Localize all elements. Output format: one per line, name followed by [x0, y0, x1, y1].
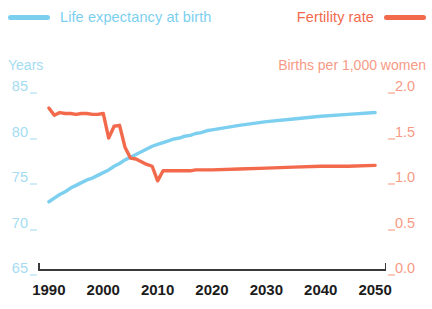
legend-item-life-expectancy: Life expectancy at birth [8, 9, 212, 25]
legend-swatch-life-expectancy [8, 15, 50, 20]
right-axis-tick-label: 1.5 [395, 124, 415, 140]
right-axis-tick-label: 0.0 [395, 260, 415, 276]
left-axis-tick-mark [30, 229, 37, 231]
left-axis-tick-label: 75 [12, 169, 28, 185]
left-axis-tick-label: 85 [12, 78, 28, 94]
legend-label-fertility-rate: Fertility rate [297, 9, 374, 25]
x-axis-cap-left [38, 263, 40, 270]
left-axis-tick-mark [30, 274, 37, 276]
plot-area [38, 88, 386, 270]
left-axis-caption: Years [8, 57, 43, 73]
left-axis-tick-label: 80 [12, 124, 28, 140]
x-axis-tick-label: 2040 [304, 281, 337, 298]
right-axis-tick-mark [388, 274, 395, 276]
right-axis-caption: Births per 1,000 women [278, 57, 426, 73]
right-axis-tick-label: 0.5 [395, 215, 415, 231]
right-axis-tick-mark [388, 138, 395, 140]
x-axis-tick-label: 1990 [32, 281, 65, 298]
left-axis-tick-label: 65 [12, 260, 28, 276]
x-axis-cap-right [385, 263, 387, 270]
x-axis-tick-label: 2050 [358, 281, 391, 298]
right-axis-tick-mark [388, 183, 395, 185]
left-axis-tick-mark [30, 138, 37, 140]
right-axis-tick-label: 1.0 [395, 169, 415, 185]
series-line-fertility-rate [49, 108, 375, 181]
left-axis-tick-mark [30, 183, 37, 185]
right-axis-tick-mark [388, 229, 395, 231]
x-axis-tick-label: 2030 [250, 281, 283, 298]
x-axis-tick-label: 2010 [141, 281, 174, 298]
left-axis-tick-label: 70 [12, 215, 28, 231]
right-axis-tick-mark [388, 92, 395, 94]
x-axis-tick-label: 2000 [87, 281, 120, 298]
legend-label-life-expectancy: Life expectancy at birth [60, 9, 212, 25]
x-axis-tick-label: 2020 [195, 281, 228, 298]
chart-container: Life expectancy at birth Fertility rate … [0, 0, 432, 309]
x-axis-line [38, 269, 386, 271]
right-axis-tick-label: 2.0 [395, 78, 415, 94]
legend-swatch-fertility-rate [384, 15, 426, 20]
series-line-life-expectancy [49, 113, 375, 202]
left-axis-tick-mark [30, 92, 37, 94]
series-svg [38, 88, 386, 270]
legend-item-fertility-rate: Fertility rate [297, 9, 426, 25]
